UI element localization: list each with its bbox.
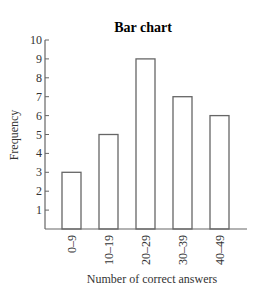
y-tick-label: 6 xyxy=(36,109,42,123)
bar xyxy=(136,59,155,229)
y-tick-label: 7 xyxy=(36,90,42,104)
x-axis-label: Number of correct answers xyxy=(87,272,218,286)
y-axis: 12345678910 xyxy=(30,33,49,229)
bar-chart: Bar chart 12345678910 0–910–1920–2930–39… xyxy=(0,0,256,295)
y-tick-label: 4 xyxy=(36,146,42,160)
y-tick-label: 1 xyxy=(36,203,42,217)
chart-title: Bar chart xyxy=(114,20,172,35)
bars-group xyxy=(62,59,229,229)
x-tick-label: 40–49 xyxy=(213,235,227,265)
x-tick-label: 30–39 xyxy=(176,235,190,265)
x-axis: 0–910–1920–2930–3940–49 xyxy=(45,229,247,265)
y-axis-label: Frequency xyxy=(7,110,21,161)
y-tick-label: 10 xyxy=(30,33,42,47)
bar xyxy=(99,135,118,230)
y-tick-label: 5 xyxy=(36,128,42,142)
y-tick-label: 2 xyxy=(36,184,42,198)
bar xyxy=(62,172,81,229)
y-tick-label: 9 xyxy=(36,52,42,66)
x-tick-label: 20–29 xyxy=(139,235,153,265)
x-tick-label: 10–19 xyxy=(102,235,116,265)
x-tick-label: 0–9 xyxy=(65,235,79,253)
y-tick-label: 8 xyxy=(36,71,42,85)
bar xyxy=(173,97,192,229)
y-tick-label: 3 xyxy=(36,165,42,179)
bar xyxy=(210,116,229,229)
